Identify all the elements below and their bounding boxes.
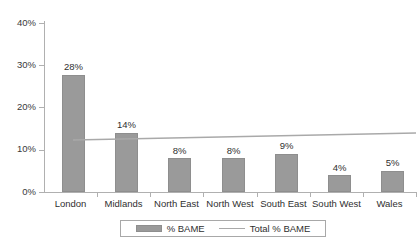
bar-value-label: 4% (319, 163, 360, 173)
legend-bar-swatch-icon (136, 225, 162, 232)
y-axis-tick-label: 20% (0, 102, 36, 112)
bar-value-label: 5% (372, 158, 413, 168)
legend-label: % BAME (167, 223, 205, 234)
bar-midlands (115, 133, 138, 192)
bar-south-east (275, 154, 298, 192)
y-axis-tick-label: 0% (0, 187, 36, 197)
bar-wales (381, 171, 404, 192)
x-axis-tick-mark (363, 192, 364, 197)
x-axis-category-label: Midlands (97, 198, 150, 209)
x-axis-category-label: London (44, 198, 97, 209)
y-axis-tick-label: 30% (0, 60, 36, 70)
x-axis-tick-mark (203, 192, 204, 197)
bar-north-east (168, 158, 191, 192)
bar-value-label: 8% (213, 146, 254, 156)
x-axis-category-label: Wales (363, 198, 416, 209)
bar-south-west (328, 175, 351, 192)
bar-value-label: 9% (266, 141, 307, 151)
x-axis-tick-mark (257, 192, 258, 197)
bar-value-label: 28% (53, 62, 94, 72)
x-axis-category-label: North East (150, 198, 203, 209)
bar-value-label: 14% (106, 120, 147, 130)
y-axis-line (44, 21, 45, 193)
bar-value-label: 8% (159, 146, 200, 156)
legend-label: Total % BAME (250, 223, 311, 234)
x-axis-category-label: South West (310, 198, 363, 209)
bame-bar-chart: 40% 30% 20% 10% 0% 28% 14% 8% 8% 9% 4% 5… (0, 0, 419, 241)
x-axis-tick-mark (416, 192, 417, 197)
bar-london (62, 75, 85, 192)
y-axis-tick-label: 40% (0, 18, 36, 28)
x-axis-category-label: North West (203, 198, 257, 209)
x-axis-tick-mark (150, 192, 151, 197)
chart-legend: % BAME Total % BAME (120, 220, 326, 237)
x-axis-line (44, 192, 417, 193)
legend-line-swatch-icon (219, 228, 245, 229)
y-axis-tick-label: 10% (0, 144, 36, 154)
x-axis-tick-mark (97, 192, 98, 197)
x-axis-tick-mark (310, 192, 311, 197)
legend-item-bame[interactable]: % BAME (136, 223, 205, 234)
bar-north-west (222, 158, 245, 192)
legend-item-total-bame[interactable]: Total % BAME (219, 223, 311, 234)
x-axis-category-label: South East (257, 198, 310, 209)
